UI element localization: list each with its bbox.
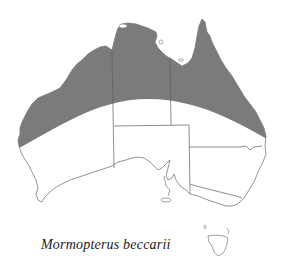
melville-island	[119, 24, 127, 28]
kangaroo-island	[161, 198, 171, 202]
tasmania-outline	[208, 235, 228, 256]
king-island	[204, 225, 206, 229]
mornington-island	[179, 59, 184, 61]
species-caption: Mormopterus beccarii	[41, 237, 171, 253]
distribution-map	[0, 0, 286, 275]
flinders-island	[227, 228, 229, 234]
groote-eylandt	[159, 40, 163, 44]
